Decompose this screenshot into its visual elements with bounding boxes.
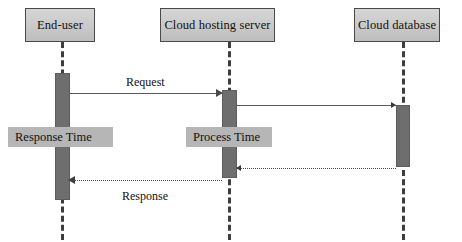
arrowhead-database-to-server-icon — [236, 165, 241, 171]
message-line-database-to-server — [237, 168, 396, 169]
message-label-request: Request — [126, 76, 165, 88]
arrowhead-server-to-database-icon — [391, 102, 396, 108]
participant-label-cloud-database: Cloud database — [355, 19, 439, 32]
sequence-diagram: End-user Cloud hosting server Cloud data… — [0, 0, 462, 242]
annotation-process-time[interactable]: Process Time — [186, 127, 272, 147]
annotation-label-process-time: Process Time — [186, 131, 260, 144]
message-label-response: Response — [122, 190, 168, 202]
activation-bar-cloud-database — [396, 105, 410, 167]
participant-label-end-user: End-user — [34, 19, 86, 32]
participant-box-end-user[interactable]: End-user — [25, 8, 95, 42]
participant-box-cloud-hosting-server[interactable]: Cloud hosting server — [160, 8, 275, 42]
message-line-response — [70, 180, 222, 181]
message-line-server-to-database — [237, 105, 397, 106]
arrowhead-response-icon — [68, 176, 75, 184]
annotation-label-response-time: Response Time — [8, 131, 92, 144]
arrowhead-request-icon — [216, 89, 223, 97]
participant-label-cloud-hosting-server: Cloud hosting server — [161, 19, 273, 32]
annotation-response-time[interactable]: Response Time — [8, 127, 113, 147]
message-line-request — [70, 93, 222, 94]
participant-box-cloud-database[interactable]: Cloud database — [354, 8, 440, 42]
